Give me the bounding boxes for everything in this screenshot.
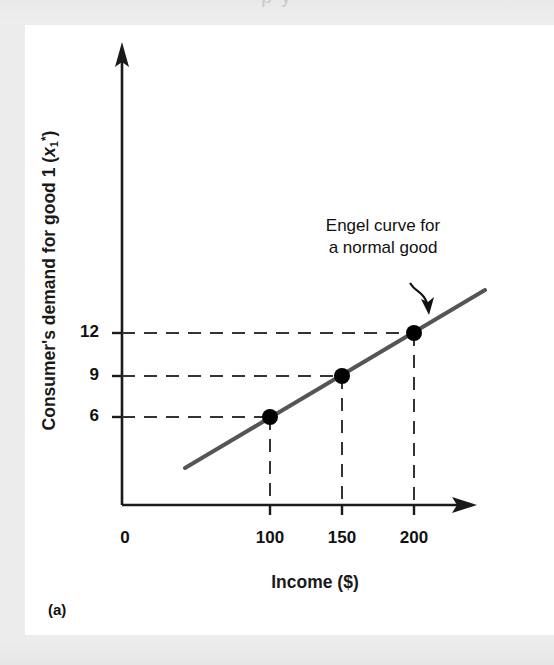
curve-annotation: Engel curve for a normal good [283,215,483,259]
data-point-150-9 [334,368,350,384]
y-axis-superscript: * [39,136,53,141]
annotation-arrow-icon [410,283,434,315]
curve-annotation-line-2: a normal good [283,237,483,259]
x-tick-label-0: 0 [100,528,150,548]
panel-letter: (a) [48,601,66,618]
plot-area: Consumer's demand for good 1 (x1*) 12 9 … [25,25,554,635]
figure-panel: Consumer's demand for good 1 (x1*) 12 9 … [25,25,554,635]
y-axis-subscript: 1 [48,141,60,147]
x-tick-label-150: 150 [317,528,367,548]
data-point-100-6 [262,409,278,425]
y-tick-label-6: 6 [59,406,99,426]
y-axis-ticks [112,333,122,417]
x-tick-label-200: 200 [389,528,439,548]
x-tick-label-100: 100 [245,528,295,548]
y-tick-label-9: 9 [59,365,99,385]
x-axis [122,497,477,513]
guide-lines-horizontal [122,333,414,417]
y-axis-title-suffix: ) [39,131,59,137]
guide-lines-vertical [270,333,414,505]
y-tick-label-12: 12 [59,322,99,342]
y-axis [115,42,129,505]
x-axis-ticks [270,505,414,515]
y-axis-variable: x [39,147,59,157]
x-axis-title: Income ($) [180,572,450,593]
y-axis-title: Consumer's demand for good 1 (x1*) [39,71,60,491]
data-point-200-12 [406,325,422,341]
clipped-text-above-figure: p y [0,0,554,8]
y-axis-title-prefix: Consumer's demand for good 1 ( [39,157,59,431]
curve-annotation-line-1: Engel curve for [283,215,483,237]
